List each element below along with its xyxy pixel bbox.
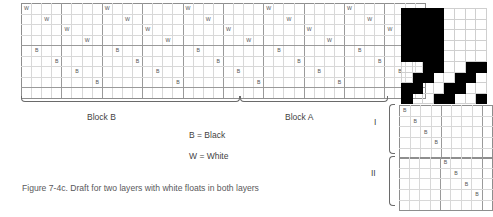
grid-cell xyxy=(62,35,72,46)
grid-cell xyxy=(223,46,233,57)
grid-cell xyxy=(183,56,193,67)
grid-cell xyxy=(32,67,42,78)
pattern-cell-white xyxy=(476,30,487,41)
grid-cell xyxy=(203,46,213,57)
grid-cell xyxy=(430,200,440,211)
grid-cell-marked: B xyxy=(112,46,122,57)
bracket-layer-two xyxy=(389,156,395,206)
grid-cell xyxy=(274,14,284,25)
pattern-cell-black xyxy=(433,9,444,20)
grid-cell xyxy=(451,190,462,201)
grid-cell xyxy=(112,67,122,78)
grid-cell xyxy=(274,56,284,67)
grid-cell xyxy=(385,67,395,78)
grid-row: WWWWW xyxy=(22,4,426,15)
grid-cell xyxy=(32,35,42,46)
pattern-cell-white xyxy=(465,30,476,41)
grid-cell xyxy=(22,56,32,67)
grid-cell-marked: W xyxy=(264,4,274,15)
pattern-cell-white xyxy=(476,51,487,62)
pattern-cell-black xyxy=(444,83,455,94)
grid-cell xyxy=(213,35,223,46)
grid-cell xyxy=(442,116,452,127)
white-mark: W xyxy=(367,17,372,22)
draft-table: WWWWWWWWWWWWWWWWWWWWBBBBBBBBBBBBBBBBBBBB xyxy=(21,3,426,99)
grid-cell-marked: B xyxy=(173,77,183,88)
grid-cell xyxy=(421,138,432,149)
grid-cell-marked: B xyxy=(314,67,324,78)
grid-cell xyxy=(163,14,173,25)
bracket-layer-one xyxy=(389,104,395,154)
grid-cell xyxy=(153,77,163,88)
pattern-cell-white xyxy=(465,40,476,51)
grid-cell xyxy=(385,4,395,15)
grid-row: BBBBB xyxy=(22,56,426,67)
grid-row: BBBBB xyxy=(22,67,426,78)
grid-cell xyxy=(22,77,32,88)
grid-cell-marked: B xyxy=(294,56,304,67)
white-mark: W xyxy=(165,38,170,43)
pattern-cell-white xyxy=(433,83,444,94)
black-mark: B xyxy=(196,48,199,53)
grid-cell xyxy=(324,25,334,36)
grid-cell xyxy=(42,67,52,78)
grid-cell xyxy=(32,14,42,25)
grid-cell-marked: W xyxy=(62,25,72,36)
grid-cell xyxy=(42,77,52,88)
grid-cell xyxy=(440,179,451,190)
grid-cell xyxy=(183,67,193,78)
grid-cell xyxy=(82,77,92,88)
grid-cell-marked: W xyxy=(42,14,52,25)
grid-cell xyxy=(294,14,304,25)
grid-cell xyxy=(62,46,72,57)
pattern-cell-black xyxy=(433,93,444,104)
grid-cell xyxy=(62,77,72,88)
block-b-label: Block B xyxy=(87,112,116,122)
grid-cell xyxy=(472,106,482,117)
grid-cell xyxy=(452,127,462,138)
grid-cell xyxy=(304,4,314,15)
grid-row: B xyxy=(400,158,493,169)
grid-cell xyxy=(440,200,451,211)
grid-cell xyxy=(430,179,440,190)
grid-cell xyxy=(62,4,72,15)
grid-cell xyxy=(163,25,173,36)
grid-cell xyxy=(410,179,420,190)
pattern-cell-white xyxy=(444,61,455,72)
layer-two-label: II xyxy=(371,168,376,178)
grid-cell xyxy=(22,46,32,57)
grid-cell xyxy=(42,35,52,46)
grid-cell xyxy=(314,14,324,25)
grid-cell-marked: B xyxy=(431,138,442,149)
grid-cell xyxy=(410,106,421,117)
grid-cell-marked: B xyxy=(254,77,264,88)
grid-cell xyxy=(153,35,163,46)
grid-cell xyxy=(122,46,132,57)
grid-cell xyxy=(365,56,375,67)
white-mark: W xyxy=(24,6,29,11)
grid-cell-marked: B xyxy=(461,179,472,190)
white-mark: W xyxy=(145,27,150,32)
grid-cell xyxy=(193,14,203,25)
grid-cell xyxy=(304,35,314,46)
pattern-cell-black xyxy=(454,72,465,83)
grid-cell xyxy=(92,46,102,57)
grid-cell xyxy=(254,35,264,46)
grid-cell xyxy=(365,67,375,78)
layer-one-grid: BBBB xyxy=(399,105,493,159)
grid-cell xyxy=(400,127,411,138)
pattern-cell-black xyxy=(402,19,413,30)
layer-two-body: BBBB xyxy=(400,158,493,211)
grid-cell xyxy=(92,14,102,25)
grid-cell xyxy=(52,35,62,46)
pattern-cell-white xyxy=(454,40,465,51)
grid-cell-marked: B xyxy=(52,56,62,67)
grid-cell xyxy=(122,35,132,46)
grid-cell xyxy=(163,46,173,57)
black-mark: B xyxy=(237,69,240,74)
grid-cell xyxy=(183,25,193,36)
grid-row xyxy=(400,200,493,211)
grid-cell xyxy=(264,46,274,57)
pattern-cell-black xyxy=(433,61,444,72)
grid-cell xyxy=(345,77,355,88)
